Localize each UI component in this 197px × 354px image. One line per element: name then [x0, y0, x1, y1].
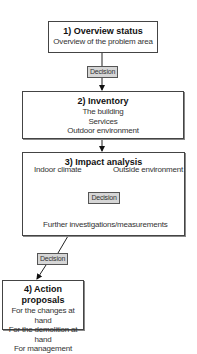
step-action-proposals: 4) Action proposals For the changes at h…: [2, 280, 84, 330]
step-line: Overview of the problem area: [49, 37, 157, 47]
step-title: 1) Overview status: [49, 26, 157, 37]
arrow-decision-4: [37, 265, 46, 279]
step-line: For management: [3, 344, 83, 354]
step-line: For the demolition at hand: [3, 325, 83, 344]
step-inventory: 2) Inventory The building Services Outdo…: [22, 91, 184, 139]
step-line: Services: [23, 117, 183, 127]
decision-node: Decision: [37, 253, 68, 265]
step-title: 2) Inventory: [23, 96, 183, 107]
step-overview-status: 1) Overview status Overview of the probl…: [48, 21, 158, 53]
step-title: 4) Action proposals: [3, 284, 83, 306]
input-indoor-climate: Indoor climate: [34, 165, 81, 174]
decision-node: Decision: [87, 66, 118, 78]
step-line: For the changes at hand: [3, 306, 83, 325]
step-line: The building: [23, 107, 183, 117]
input-outside-environment: Outside environment: [113, 165, 183, 174]
further-investigations: Further investigations/measurements: [43, 220, 168, 229]
connector-3-decision: [58, 236, 68, 253]
decision-node: Decision: [88, 192, 120, 204]
step-line: Outdoor environment: [23, 126, 183, 136]
